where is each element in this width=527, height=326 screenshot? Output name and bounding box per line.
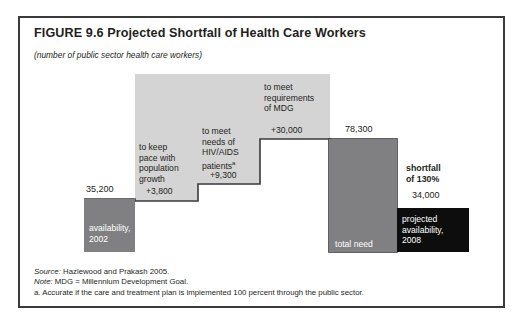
note-source: Source: Hazlewood and Prakash 2005. bbox=[34, 267, 489, 277]
label-step-population-growth: to keep pace with population growth bbox=[139, 142, 179, 184]
label-total-need-value: 78,300 bbox=[345, 124, 373, 134]
figure-notes: Source: Hazlewood and Prakash 2005. Note… bbox=[34, 267, 489, 298]
note-label: Note: bbox=[34, 277, 53, 286]
note-source-label: Source: bbox=[34, 267, 61, 276]
note-source-text: Hazlewood and Prakash 2005. bbox=[61, 267, 169, 276]
label-step-hivaids: to meet needs of HIV/AIDS patientsa bbox=[202, 126, 239, 171]
label-availability-2002-value: 35,200 bbox=[86, 184, 114, 194]
note-text: MDG = Millennium Development Goal. bbox=[53, 277, 188, 286]
value-shortfall: 34,000 bbox=[412, 190, 440, 200]
value-step-hivaids: +9,300 bbox=[210, 170, 237, 181]
note-footnote-a: a. Accurate if the care and treatment pl… bbox=[34, 288, 489, 298]
footnote-marker-a: a bbox=[232, 160, 235, 166]
note-mdg: Note: MDG = Millennium Development Goal. bbox=[34, 277, 489, 287]
value-step-mdg: +30,000 bbox=[271, 125, 302, 136]
label-shortfall: shortfall of 130% bbox=[406, 163, 441, 185]
value-step-population-growth: +3,800 bbox=[146, 186, 173, 197]
label-total-need: total need bbox=[335, 239, 373, 250]
label-step-mdg: to meet requirements of MDG bbox=[264, 82, 314, 114]
waterfall-chart: 35,200 availability, 2002 to keep pace w… bbox=[20, 18, 503, 306]
figure-panel: FIGURE 9.6 Projected Shortfall of Health… bbox=[18, 16, 505, 308]
label-availability-2002: availability, 2002 bbox=[89, 223, 130, 244]
label-projected-availability-2008: projected availability, 2008 bbox=[402, 214, 443, 246]
bar-total-need bbox=[329, 139, 397, 252]
